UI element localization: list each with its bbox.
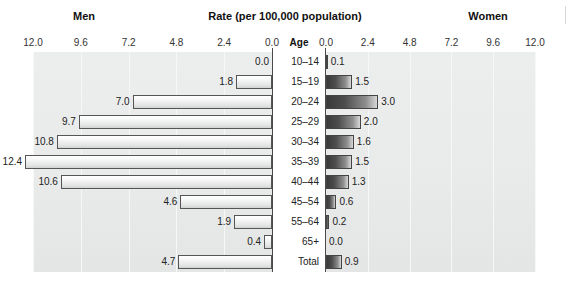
men-value-65+: 0.4 bbox=[231, 232, 261, 252]
women-bar-10-14 bbox=[326, 55, 328, 69]
men-bar-40-44 bbox=[61, 175, 272, 189]
women-bar-35-39 bbox=[326, 155, 352, 169]
men-bar-Total bbox=[178, 255, 272, 269]
age-label-55-64: 55–64 bbox=[273, 212, 319, 232]
age-label-20-24: 20–24 bbox=[273, 92, 319, 112]
men-value-15-19: 1.8 bbox=[203, 72, 233, 92]
men-bar-20-24 bbox=[133, 95, 272, 109]
women-value-40-44: 1.3 bbox=[352, 172, 366, 192]
men-value-30-34: 10.8 bbox=[24, 132, 54, 152]
women-value-35-39: 1.5 bbox=[355, 152, 369, 172]
women-value-15-19: 1.5 bbox=[355, 72, 369, 92]
women-bar-20-24 bbox=[326, 95, 378, 109]
men-value-10-14: 0.0 bbox=[239, 52, 269, 72]
men-bar-25-29 bbox=[79, 115, 272, 129]
men-bar-45-54 bbox=[180, 195, 272, 209]
women-value-25-29: 2.0 bbox=[364, 112, 378, 132]
age-label-40-44: 40–44 bbox=[273, 172, 319, 192]
women-value-20-24: 3.0 bbox=[381, 92, 395, 112]
age-label-35-39: 35–39 bbox=[273, 152, 319, 172]
women-bar-Total bbox=[326, 255, 342, 269]
women-bar-30-34 bbox=[326, 135, 354, 149]
women-value-45-54: 0.6 bbox=[339, 192, 353, 212]
age-label-15-19: 15–19 bbox=[273, 72, 319, 92]
age-label-Total: Total bbox=[273, 252, 319, 272]
age-label-65+: 65+ bbox=[273, 232, 319, 252]
men-value-25-29: 9.7 bbox=[46, 112, 76, 132]
age-label-10-14: 10–14 bbox=[273, 52, 319, 72]
age-label-45-54: 45–54 bbox=[273, 192, 319, 212]
men-bar-30-34 bbox=[57, 135, 272, 149]
men-value-55-64: 1.9 bbox=[201, 212, 231, 232]
women-bar-15-19 bbox=[326, 75, 352, 89]
men-value-35-39: 12.4 bbox=[0, 152, 22, 172]
chart-rows: 10–140.00.115–191.81.520–247.03.025–299.… bbox=[0, 0, 570, 284]
women-value-65+: 0.0 bbox=[329, 232, 343, 252]
men-value-Total: 4.7 bbox=[145, 252, 175, 272]
women-bar-40-44 bbox=[326, 175, 349, 189]
women-bar-25-29 bbox=[326, 115, 361, 129]
men-value-45-54: 4.6 bbox=[147, 192, 177, 212]
men-bar-35-39 bbox=[25, 155, 272, 169]
women-value-30-34: 1.6 bbox=[357, 132, 371, 152]
men-bar-15-19 bbox=[236, 75, 272, 89]
men-value-20-24: 7.0 bbox=[100, 92, 130, 112]
men-value-40-44: 10.6 bbox=[28, 172, 58, 192]
age-label-30-34: 30–34 bbox=[273, 132, 319, 152]
women-value-10-14: 0.1 bbox=[331, 52, 345, 72]
age-label-25-29: 25–29 bbox=[273, 112, 319, 132]
women-bar-55-64 bbox=[326, 215, 329, 229]
women-value-55-64: 0.2 bbox=[332, 212, 346, 232]
women-bar-45-54 bbox=[326, 195, 336, 209]
men-bar-65+ bbox=[264, 235, 272, 249]
women-value-Total: 0.9 bbox=[345, 252, 359, 272]
men-bar-55-64 bbox=[234, 215, 272, 229]
